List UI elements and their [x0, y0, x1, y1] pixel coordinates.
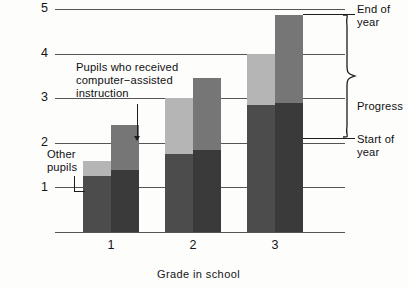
- bar-other-pupils-grade-3: [247, 54, 275, 232]
- gridline-0-baseline: [55, 232, 345, 233]
- bar-segment-progress: [111, 125, 139, 170]
- annotation-other-pupils-leader-hook: [74, 191, 85, 192]
- bar-other-pupils-grade-2: [165, 98, 193, 232]
- bar-segment-progress: [247, 54, 275, 105]
- bar-segment-start-of-year: [193, 150, 221, 233]
- annotation-cai-leader-line: [137, 104, 138, 137]
- bar-cai-grade-2: [193, 78, 221, 232]
- bar-segment-start-of-year: [165, 154, 193, 232]
- y-tick-label-2: 2: [26, 136, 48, 149]
- annotation-progress-label: Progress: [357, 100, 408, 113]
- progress-brace-icon: [340, 14, 360, 139]
- gridline-5: [55, 9, 345, 10]
- bar-cai-grade-3: [275, 15, 303, 232]
- annotation-end-of-year-label: End of year: [357, 3, 403, 29]
- bar-segment-start-of-year: [83, 176, 111, 232]
- annotation-start-of-year-label: Start of year: [357, 133, 403, 159]
- annotation-other-pupils-leader-line: [74, 176, 75, 192]
- bar-segment-start-of-year: [275, 103, 303, 232]
- y-tick-label-1: 1: [26, 181, 48, 194]
- x-tick-label-1: 1: [91, 238, 131, 252]
- bar-segment-start-of-year: [111, 170, 139, 232]
- bar-cai-grade-1: [111, 125, 139, 232]
- bar-segment-progress: [165, 98, 193, 154]
- y-tick-label-5: 5: [26, 2, 48, 15]
- plot-area: [55, 9, 345, 232]
- annotation-cai-arrow-icon: [134, 136, 140, 141]
- bar-segment-progress: [275, 15, 303, 103]
- x-axis-title: Grade in school: [0, 268, 397, 280]
- annotation-other-pupils-label: Other pupils: [47, 148, 107, 174]
- y-tick-label-3: 3: [26, 91, 48, 104]
- x-tick-label-2: 2: [173, 238, 213, 252]
- y-tick-label-4: 4: [26, 47, 48, 60]
- bar-segment-start-of-year: [247, 105, 275, 232]
- annotation-cai-label: Pupils who received computer−assisted in…: [76, 61, 211, 101]
- x-tick-label-3: 3: [255, 238, 295, 252]
